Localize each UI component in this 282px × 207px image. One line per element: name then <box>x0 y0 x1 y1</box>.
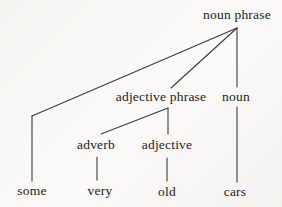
tree-node-label-adjective: adjective <box>142 138 193 152</box>
tree-node-label-noun-phrase: noun phrase <box>203 8 271 22</box>
tree-node-label-old: old <box>158 185 176 199</box>
tree-node-label-some: some <box>17 184 46 198</box>
tree-nodes-layer: noun phraseadjective phrasenounadverbadj… <box>0 0 282 207</box>
tree-node-label-noun: noun <box>222 90 250 104</box>
syntax-tree-figure: noun phraseadjective phrasenounadverbadj… <box>0 0 282 207</box>
tree-node-label-very: very <box>88 184 113 198</box>
tree-node-label-adjective-phrase: adjective phrase <box>116 90 207 104</box>
tree-node-label-cars: cars <box>224 185 247 199</box>
tree-node-label-adverb: adverb <box>77 138 115 152</box>
